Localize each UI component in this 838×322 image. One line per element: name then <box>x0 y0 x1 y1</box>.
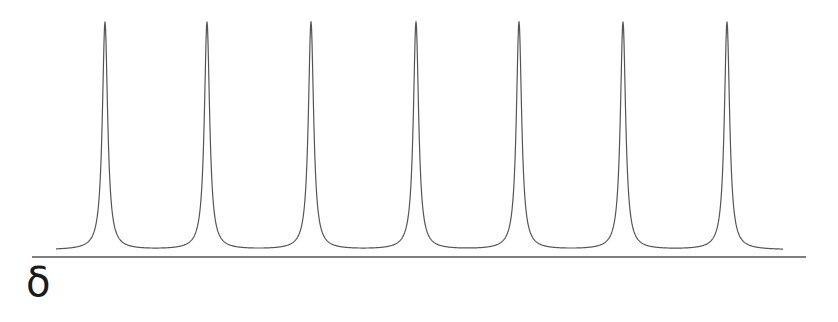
peak-plot <box>0 0 838 322</box>
delta-axis-label: δ <box>26 262 50 302</box>
peak-curve <box>56 21 783 249</box>
